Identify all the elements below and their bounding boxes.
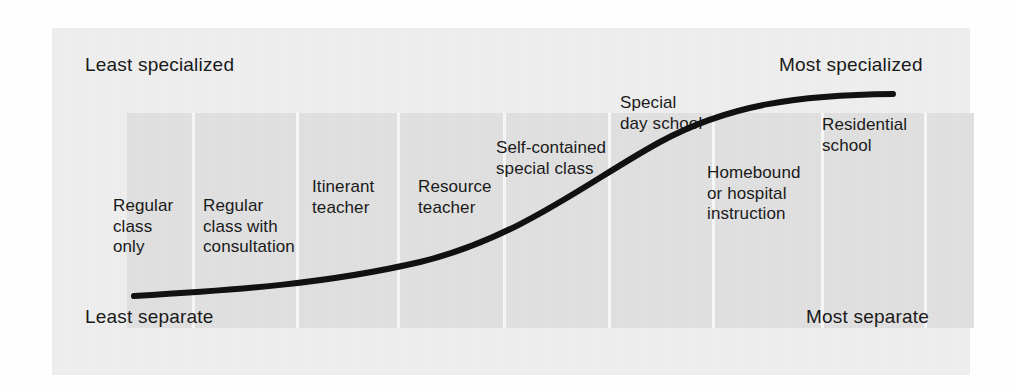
placement-label-itinerant-teacher: Itinerant teacher <box>312 177 374 218</box>
corner-label-most-specialized: Most specialized <box>779 54 923 76</box>
column-divider <box>608 113 611 328</box>
placement-label-regular-class-only: Regular class only <box>113 196 173 258</box>
column-divider <box>192 113 195 328</box>
column-divider <box>924 113 927 328</box>
placement-label-special-day-school: Special day school <box>620 93 702 134</box>
outer-panel: Least specialized Most specialized Least… <box>52 28 970 375</box>
corner-label-most-separate: Most separate <box>806 306 929 328</box>
placement-label-homebound-or-hospital-instruction: Homebound or hospital instruction <box>707 163 801 225</box>
figure-canvas: Least specialized Most specialized Least… <box>0 0 1016 391</box>
column-divider <box>397 113 400 328</box>
placement-label-resource-teacher: Resource teacher <box>418 177 492 218</box>
corner-label-least-specialized: Least specialized <box>85 54 234 76</box>
corner-label-least-separate: Least separate <box>85 306 214 328</box>
placement-label-self-contained-special-class: Self-contained special class <box>496 138 606 179</box>
column-divider <box>296 113 299 328</box>
placement-label-residential-school: Residential school <box>822 115 907 156</box>
placement-label-regular-class-with-consultation: Regular class with consultation <box>203 196 295 258</box>
